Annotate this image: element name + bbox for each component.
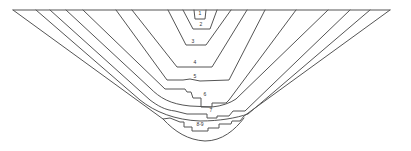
layer-label-2: 2 xyxy=(200,21,203,27)
layer-label-6: 6 xyxy=(204,91,207,97)
layer-label-3: 3 xyxy=(192,38,195,44)
section-diagram: 1 2 3 4 5 6 7 8-9 xyxy=(0,0,411,151)
section-svg: 1 2 3 4 5 6 7 8-9 xyxy=(0,0,411,151)
layer-label-7: 7 xyxy=(210,107,213,113)
layer-label-8-9: 8-9 xyxy=(196,121,203,127)
layer-label-4: 4 xyxy=(194,59,197,65)
layer-4-boundary xyxy=(132,10,247,67)
layer-6-base xyxy=(66,10,328,107)
layer-label-1: 1 xyxy=(199,10,202,16)
layer-label-5: 5 xyxy=(194,73,197,79)
layer-7-base xyxy=(36,10,370,121)
